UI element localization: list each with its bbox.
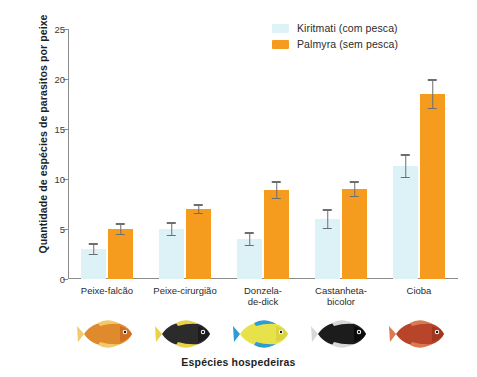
- error-bar: [327, 209, 329, 229]
- bar-group: [380, 29, 458, 279]
- error-bar: [405, 154, 407, 178]
- bar-group: [224, 29, 302, 279]
- y-tick-label: 5: [60, 224, 65, 235]
- bar-column: [186, 29, 211, 279]
- fish-image-cell: [380, 315, 458, 353]
- bar: [393, 166, 418, 279]
- error-bar: [198, 204, 200, 214]
- bar-group: [302, 29, 380, 279]
- bar: [264, 190, 289, 279]
- parasite-species-bar-chart: Kiritmati (com pesca) Palmyra (sem pesca…: [0, 0, 477, 377]
- bar-column: [342, 29, 367, 279]
- bicolor-chromis-image: [310, 317, 372, 351]
- bar-column: [393, 29, 418, 279]
- category-label-line: bicolor: [302, 296, 380, 307]
- hawkfish-image: [76, 317, 138, 351]
- bar-column: [108, 29, 133, 279]
- bar: [108, 229, 133, 279]
- bar-groups: [68, 29, 458, 279]
- y-axis-title: Quantidade de espécies de parasitos por …: [37, 9, 49, 259]
- error-bar: [432, 79, 434, 109]
- bar-column: [159, 29, 184, 279]
- error-bar: [249, 232, 251, 246]
- category-label: Peixe-cirurgião: [146, 285, 224, 307]
- error-bar: [354, 181, 356, 197]
- bar: [342, 189, 367, 279]
- error-bar: [93, 243, 95, 255]
- damselfish-image: [232, 317, 294, 351]
- bar-group: [146, 29, 224, 279]
- fish-image-cell: [146, 315, 224, 353]
- fish-image-cell: [224, 315, 302, 353]
- y-tick-label: 15: [54, 124, 65, 135]
- y-tick-label: 10: [54, 174, 65, 185]
- category-label: Donzela-de-dick: [224, 285, 302, 307]
- plot-area: 0510152025: [68, 29, 458, 279]
- fish-image-cell: [302, 315, 380, 353]
- category-label-line: Castanheta-: [302, 285, 380, 296]
- bar: [186, 209, 211, 279]
- category-label-line: Cioba: [380, 285, 458, 296]
- y-tick-label: 25: [54, 24, 65, 35]
- category-label-line: Peixe-falcão: [68, 285, 146, 296]
- bar-column: [315, 29, 340, 279]
- bar: [159, 229, 184, 279]
- error-bar: [120, 223, 122, 235]
- bar: [420, 94, 445, 279]
- bar-column: [81, 29, 106, 279]
- category-label-line: Peixe-cirurgião: [146, 285, 224, 296]
- category-label-line: de-dick: [224, 296, 302, 307]
- y-tick-label: 0: [60, 274, 65, 285]
- bar-group: [68, 29, 146, 279]
- x-axis-title: Espécies hospedeiras: [0, 356, 477, 368]
- bar-column: [420, 29, 445, 279]
- error-bar: [276, 181, 278, 199]
- snapper-image: [388, 317, 450, 351]
- category-label: Cioba: [380, 285, 458, 307]
- host-species-images: [68, 315, 458, 353]
- x-axis-category-labels: Peixe-falcãoPeixe-cirurgiãoDonzela-de-di…: [68, 285, 458, 307]
- category-label: Castanheta-bicolor: [302, 285, 380, 307]
- error-bar: [171, 222, 173, 236]
- y-tick-label: 20: [54, 74, 65, 85]
- fish-image-cell: [68, 315, 146, 353]
- category-label: Peixe-falcão: [68, 285, 146, 307]
- category-label-line: Donzela-: [224, 285, 302, 296]
- bar-column: [264, 29, 289, 279]
- surgeonfish-image: [154, 317, 216, 351]
- bar-column: [237, 29, 262, 279]
